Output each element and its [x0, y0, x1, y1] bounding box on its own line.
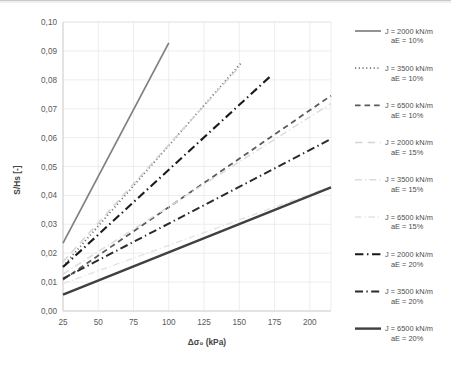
y-tick-label: 0,06 — [41, 134, 57, 143]
legend-label-line2: aE = 10% — [391, 36, 424, 45]
chart-legend: J = 2000 kN/maE = 10%J = 3500 kN/maE = 1… — [355, 27, 433, 343]
x-tick-label: 25 — [58, 318, 68, 327]
legend-label-line1: J = 2000 kN/m — [385, 250, 433, 259]
x-tick-label: 75 — [129, 318, 139, 327]
legend-item-5[interactable]: J = 6500 kN/maE = 15% — [355, 213, 433, 232]
x-tick-label: 150 — [232, 318, 246, 327]
chart-figure: 0,000,010,020,030,040,050,060,070,080,09… — [0, 0, 451, 365]
legend-item-4[interactable]: J = 3500 kN/maE = 15% — [355, 175, 433, 194]
legend-label-line2: aE = 10% — [391, 74, 424, 83]
legend-label-line2: aE = 20% — [391, 334, 424, 343]
y-tick-label: 0,03 — [41, 220, 57, 229]
y-tick-label: 0,01 — [41, 278, 57, 287]
legend-item-7[interactable]: J = 3500 kN/maE = 20% — [355, 287, 433, 306]
y-tick-label: 0,08 — [41, 76, 57, 85]
legend-label-line2: aE = 10% — [391, 111, 424, 120]
x-tick-label: 175 — [268, 318, 282, 327]
y-tick-label: 0,00 — [41, 307, 57, 316]
y-tick-label: 0,10 — [41, 18, 57, 27]
y-tick-label: 0,04 — [41, 191, 57, 200]
legend-label-line1: J = 6500 kN/m — [385, 324, 433, 333]
legend-item-6[interactable]: J = 2000 kN/maE = 20% — [355, 250, 433, 269]
legend-label-line1: J = 6500 kN/m — [385, 101, 433, 110]
legend-label-line1: J = 3500 kN/m — [385, 175, 433, 184]
legend-label-line1: J = 3500 kN/m — [385, 287, 433, 296]
x-tick-label: 200 — [303, 318, 317, 327]
x-tick-label: 50 — [94, 318, 104, 327]
top-divider — [0, 0, 451, 3]
legend-label-line2: aE = 20% — [391, 297, 424, 306]
y-axis-tick-labels: 0,000,010,020,030,040,050,060,070,080,09… — [41, 18, 57, 316]
legend-label-line1: J = 6500 kN/m — [385, 213, 433, 222]
y-axis-title: S/Hs [-] — [12, 165, 22, 195]
y-tick-label: 0,09 — [41, 47, 57, 56]
y-tick-label: 0,05 — [41, 163, 57, 172]
legend-label-line2: aE = 20% — [391, 260, 424, 269]
legend-item-8[interactable]: J = 6500 kN/maE = 20% — [355, 324, 433, 343]
legend-label-line1: J = 2000 kN/m — [385, 27, 433, 36]
x-axis-title: Δσ₀ (kPa) — [188, 337, 227, 347]
legend-label-line2: aE = 15% — [391, 185, 424, 194]
y-tick-label: 0,02 — [41, 249, 57, 258]
y-tick-label: 0,07 — [41, 105, 57, 114]
legend-label-line2: aE = 15% — [391, 222, 424, 231]
legend-item-1[interactable]: J = 3500 kN/maE = 10% — [355, 64, 433, 83]
legend-item-0[interactable]: J = 2000 kN/maE = 10% — [355, 27, 433, 46]
legend-label-line2: aE = 15% — [391, 148, 424, 157]
legend-item-2[interactable]: J = 6500 kN/maE = 10% — [355, 101, 433, 120]
chart-canvas: 0,000,010,020,030,040,050,060,070,080,09… — [0, 0, 451, 365]
legend-item-3[interactable]: J = 2000 kN/maE = 15% — [355, 138, 433, 157]
legend-label-line1: J = 3500 kN/m — [385, 64, 433, 73]
x-tick-label: 100 — [162, 318, 176, 327]
x-tick-label: 125 — [197, 318, 211, 327]
x-axis-tick-labels: 255075100125150175200 — [58, 318, 317, 327]
legend-label-line1: J = 2000 kN/m — [385, 138, 433, 147]
